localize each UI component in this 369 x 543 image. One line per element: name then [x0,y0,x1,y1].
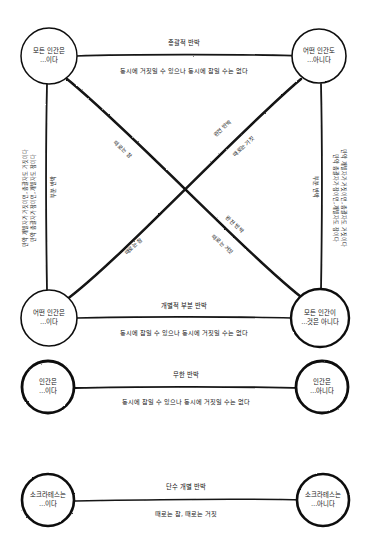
bottom-edge-line [75,499,304,501]
node-circle-top-left[interactable] [21,28,77,84]
edge-left-line [46,84,47,290]
middle-node-circle-left[interactable] [22,361,74,413]
edge-bottom-line [76,317,292,318]
square-of-opposition-diagram [0,0,369,543]
edge-right-line [321,84,322,290]
bottom-node-circle-right[interactable] [297,474,349,526]
bottom-node-circle-left[interactable] [22,474,74,526]
middle-edge-line [75,387,305,388]
middle-node-circle-right[interactable] [296,361,348,413]
node-circle-top-right[interactable] [292,29,346,83]
node-circle-bottom-left[interactable] [21,290,77,346]
edge-top-line [76,55,292,56]
node-circle-bottom-right[interactable] [291,289,349,347]
